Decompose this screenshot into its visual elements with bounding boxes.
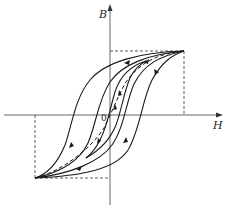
arrow-icon — [118, 90, 122, 96]
b-axis-label: B — [99, 9, 107, 20]
arrow-icon — [69, 142, 74, 148]
axes — [4, 4, 223, 205]
arrow-icon — [123, 137, 128, 143]
arrow-icon — [124, 60, 130, 65]
b-axis-arrow-icon — [108, 4, 113, 11]
h-axis-arrow-icon — [216, 113, 223, 118]
h-axis-label: H — [213, 120, 223, 131]
arrow-icon — [113, 104, 117, 110]
origin-label: 0 — [101, 114, 107, 123]
hysteresis-diagram: B H 0 — [0, 0, 227, 210]
diagram-canvas — [0, 0, 227, 210]
